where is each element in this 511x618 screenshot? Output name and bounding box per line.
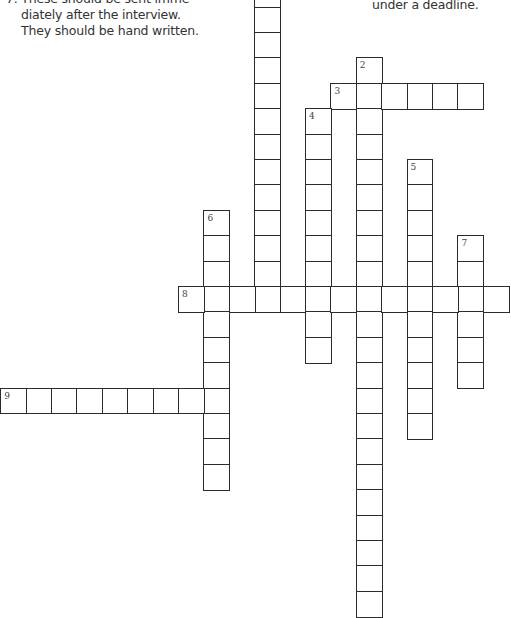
crossword-cell[interactable] bbox=[305, 311, 332, 338]
clue-number-5: 5 bbox=[411, 162, 417, 172]
crossword-cell[interactable] bbox=[254, 184, 281, 211]
clue-number-9: 9 bbox=[4, 391, 10, 401]
crossword-cell[interactable] bbox=[254, 134, 281, 161]
crossword-cell[interactable] bbox=[254, 108, 281, 135]
crossword-cell[interactable] bbox=[356, 108, 383, 135]
crossword-cell[interactable]: 7 bbox=[457, 235, 484, 262]
crossword-cell[interactable] bbox=[356, 438, 383, 465]
clue-number-8: 8 bbox=[182, 289, 188, 299]
crossword-cell[interactable] bbox=[330, 286, 357, 313]
crossword-cell[interactable] bbox=[407, 337, 434, 364]
crossword-cell[interactable] bbox=[356, 261, 383, 288]
crossword-cell[interactable] bbox=[356, 83, 383, 110]
crossword-cell[interactable] bbox=[203, 362, 230, 389]
crossword-cell[interactable] bbox=[203, 286, 230, 313]
crossword-cell[interactable] bbox=[356, 337, 383, 364]
crossword-cell[interactable] bbox=[254, 261, 281, 288]
crossword-cell[interactable] bbox=[305, 184, 332, 211]
crossword-cell[interactable] bbox=[407, 286, 434, 313]
crossword-cell[interactable] bbox=[254, 83, 281, 110]
crossword-cell[interactable] bbox=[457, 362, 484, 389]
crossword-cell[interactable] bbox=[203, 261, 230, 288]
crossword-cell[interactable] bbox=[26, 388, 53, 415]
crossword-cell[interactable] bbox=[457, 83, 484, 110]
crossword-cell[interactable] bbox=[407, 235, 434, 262]
crossword-cell[interactable] bbox=[203, 438, 230, 465]
crossword-cell[interactable] bbox=[229, 286, 256, 313]
crossword-cell[interactable] bbox=[356, 388, 383, 415]
crossword-cell[interactable]: 3 bbox=[330, 83, 357, 110]
crossword-cell[interactable] bbox=[203, 413, 230, 440]
crossword-cell[interactable] bbox=[356, 134, 383, 161]
crossword-cell[interactable] bbox=[203, 464, 230, 491]
crossword-cell[interactable] bbox=[356, 210, 383, 237]
crossword-cell[interactable] bbox=[432, 83, 459, 110]
crossword-cell[interactable] bbox=[127, 388, 154, 415]
crossword-cell[interactable] bbox=[457, 311, 484, 338]
clue-number-2: 2 bbox=[360, 60, 366, 70]
crossword-cell[interactable] bbox=[381, 83, 408, 110]
crossword-cell[interactable] bbox=[254, 7, 281, 34]
crossword-cell[interactable] bbox=[407, 261, 434, 288]
crossword-cell[interactable] bbox=[356, 540, 383, 567]
crossword-cell[interactable] bbox=[356, 464, 383, 491]
crossword-cell[interactable] bbox=[356, 565, 383, 592]
crossword-cell[interactable] bbox=[356, 159, 383, 186]
crossword-cell[interactable] bbox=[254, 32, 281, 59]
crossword-cell[interactable] bbox=[407, 362, 434, 389]
crossword-cell[interactable] bbox=[356, 235, 383, 262]
crossword-cell[interactable] bbox=[432, 286, 459, 313]
crossword-cell[interactable] bbox=[356, 286, 383, 313]
crossword-cell[interactable]: 4 bbox=[305, 108, 332, 135]
crossword-cell[interactable] bbox=[356, 184, 383, 211]
crossword-cell[interactable] bbox=[203, 337, 230, 364]
crossword-cell[interactable] bbox=[254, 57, 281, 84]
crossword-cell[interactable] bbox=[407, 388, 434, 415]
crossword-cell[interactable] bbox=[203, 388, 230, 415]
crossword-cell[interactable] bbox=[102, 388, 129, 415]
crossword-cell[interactable] bbox=[356, 515, 383, 542]
crossword-cell[interactable]: 6 bbox=[203, 210, 230, 237]
crossword-cell[interactable] bbox=[305, 159, 332, 186]
crossword-cell[interactable] bbox=[457, 337, 484, 364]
crossword-cell[interactable] bbox=[407, 311, 434, 338]
crossword-cell[interactable] bbox=[254, 210, 281, 237]
crossword-cell[interactable] bbox=[254, 159, 281, 186]
crossword-cell[interactable]: 5 bbox=[407, 159, 434, 186]
crossword-cell[interactable] bbox=[483, 286, 510, 313]
crossword-cell[interactable] bbox=[280, 286, 307, 313]
crossword-cell[interactable] bbox=[203, 235, 230, 262]
crossword-cell[interactable] bbox=[76, 388, 103, 415]
crossword-cell[interactable] bbox=[457, 261, 484, 288]
crossword-cell[interactable] bbox=[178, 388, 205, 415]
clue-number-6: 6 bbox=[207, 213, 213, 223]
crossword-cell[interactable]: 2 bbox=[356, 57, 383, 84]
crossword-cell[interactable] bbox=[381, 286, 408, 313]
crossword-cell[interactable] bbox=[356, 311, 383, 338]
crossword-cell[interactable] bbox=[356, 489, 383, 516]
crossword-cell[interactable] bbox=[356, 591, 383, 618]
crossword-cell[interactable] bbox=[254, 235, 281, 262]
crossword-cell[interactable] bbox=[305, 210, 332, 237]
crossword-cell[interactable] bbox=[51, 388, 78, 415]
crossword-cell[interactable] bbox=[203, 311, 230, 338]
crossword-cell[interactable] bbox=[305, 134, 332, 161]
crossword-cell[interactable] bbox=[305, 286, 332, 313]
crossword-cell[interactable] bbox=[407, 184, 434, 211]
crossword-cell[interactable]: 8 bbox=[178, 286, 205, 313]
crossword-cell[interactable] bbox=[305, 235, 332, 262]
clue-number-7: 7 bbox=[461, 238, 467, 248]
crossword-cell[interactable] bbox=[153, 388, 180, 415]
crossword-cell[interactable] bbox=[254, 286, 281, 313]
crossword-cell[interactable] bbox=[457, 286, 484, 313]
crossword-cell[interactable]: 9 bbox=[0, 388, 27, 415]
crossword-cell[interactable] bbox=[305, 261, 332, 288]
crossword-cell[interactable] bbox=[407, 413, 434, 440]
crossword-cell[interactable] bbox=[407, 210, 434, 237]
crossword-cell[interactable] bbox=[356, 362, 383, 389]
crossword-cell[interactable] bbox=[305, 337, 332, 364]
crossword-cell[interactable] bbox=[407, 83, 434, 110]
clue-number-3: 3 bbox=[334, 86, 340, 96]
crossword-cell[interactable] bbox=[356, 413, 383, 440]
